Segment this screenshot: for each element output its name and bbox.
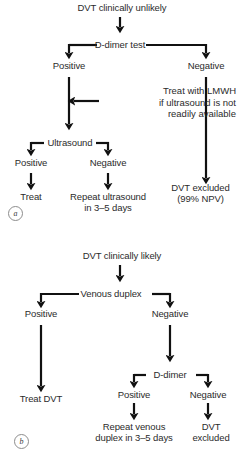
node-a-us-negative: Negative xyxy=(78,157,138,168)
node-a-root: DVT clinically unlikely xyxy=(0,2,244,13)
node-a-dvt-excluded-line2: (99% NPV) xyxy=(157,193,244,204)
node-b-dvt-excluded-line1: DVT xyxy=(182,421,240,432)
node-b-repeat-venous-duplex: Repeat venous duplex in 3–5 days xyxy=(84,421,184,443)
node-a-us-positive: Positive xyxy=(1,157,61,168)
node-a-treat: Treat xyxy=(6,191,56,202)
node-a-dvt-excluded: DVT excluded (99% NPV) xyxy=(157,182,244,204)
node-a-repeat-ultrasound-line1: Repeat ultrasound xyxy=(58,191,158,202)
annotation-a-lmwh-line3: readily available xyxy=(100,108,236,120)
node-a-positive: Positive xyxy=(34,60,104,71)
panel-label-a: a xyxy=(8,206,23,221)
node-a-repeat-ultrasound: Repeat ultrasound in 3–5 days xyxy=(58,191,158,213)
node-a-repeat-ultrasound-line2: in 3–5 days xyxy=(58,202,158,213)
node-a-dvt-excluded-line1: DVT excluded xyxy=(157,182,244,193)
node-b-repeat-venous-duplex-line2: duplex in 3–5 days xyxy=(84,432,184,443)
node-b-dvt-excluded: DVT excluded xyxy=(182,421,240,443)
node-a-negative: Negative xyxy=(171,60,241,71)
panel-label-b: b xyxy=(14,434,29,449)
node-b-dd-positive: Positive xyxy=(104,389,164,400)
annotation-a-lmwh-line2: if ultrasound is not xyxy=(100,97,236,109)
node-b-negative: Negative xyxy=(138,308,202,319)
node-b-dd-negative: Negative xyxy=(178,389,238,400)
node-b-ddimer: D-dimer xyxy=(145,369,195,380)
node-b-treat-dvt: Treat DVT xyxy=(4,393,78,404)
node-b-positive: Positive xyxy=(9,308,73,319)
node-b-venous-duplex: Venous duplex xyxy=(70,288,152,299)
node-a-ultrasound: Ultrasound xyxy=(41,137,99,148)
annotation-a-lmwh: Treat with LMWH if ultrasound is not rea… xyxy=(100,85,236,120)
node-a-ddimer-test: D-dimer test xyxy=(70,39,170,50)
node-b-root: DVT clinically likely xyxy=(0,250,244,261)
node-b-dvt-excluded-line2: excluded xyxy=(182,432,240,443)
node-b-repeat-venous-duplex-line1: Repeat venous xyxy=(84,421,184,432)
annotation-a-lmwh-line1: Treat with LMWH xyxy=(100,85,236,97)
